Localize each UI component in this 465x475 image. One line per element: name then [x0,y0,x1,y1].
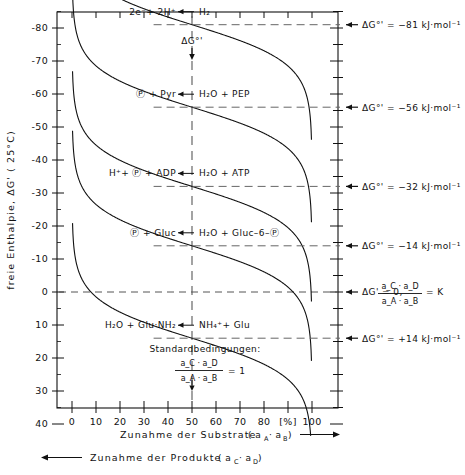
y-axis-title: freie Enthalpie, ΔG' ( 25°C) [5,130,16,289]
curve-line [77,0,312,140]
reaction-label-right: H₂O + Gluc–6–Ⓟ [199,228,279,238]
value-arrow-head [346,184,352,190]
x-axis-percent-label: [%] [279,416,296,427]
value-arrow-head [346,104,352,110]
reaction-label-left: H₂O + Glu·NH₂ [105,320,176,330]
x-tick-label: 20 [114,416,127,427]
x-axis-substrate-terms: ( a [248,430,261,440]
value-arrow-head [346,335,352,341]
y-tick-label: -60 [32,88,48,99]
y-tick-label: -40 [32,154,48,165]
y-tick-label: -10 [32,253,48,264]
y-tick-label: 30 [35,385,48,396]
delta-g-marker-arrow-head [189,54,195,60]
x-tick-label: 100 [302,416,321,427]
x-axis-product-paren-close: ) [258,453,262,463]
value-arrow-head [346,243,352,249]
standard-conditions-title: Standardbedingungen: [149,344,260,354]
equilibrium-fraction-denominator: a_A · a_B [382,297,418,306]
y-tick-label: -80 [32,22,48,33]
dg-value-label: ΔG°' = −14 kJ·mol⁻¹ [362,241,461,251]
reaction-arrow-head [178,9,184,14]
reaction-arrow-head [178,92,184,97]
x-tick-label: 30 [138,416,151,427]
reaction-label-right: NH₄⁺+ Glu [199,320,250,330]
equilibrium-fraction-numerator: a_C · a_D [381,282,418,291]
reaction-label-right: H₂ [199,7,210,17]
chart-figure: -100-80-70-60-50-40-30-20-10010203040[kJ… [0,0,465,475]
x-axis-substrate-caption: Zunahme der Substrate [120,429,256,440]
x-axis-substrate-arrow-head [333,432,340,438]
reaction-label-left: Ⓟ + Gluc [130,228,176,238]
dg-value-label: ΔG°' = −32 kJ·mol⁻¹ [362,182,461,192]
x-tick-label: 10 [90,416,103,427]
delta-g-marker-label: ΔG°' [181,36,203,46]
x-axis-substrate-paren-close: ) [288,430,292,440]
x-axis-substrate-sub-b: B [283,435,287,443]
x-axis-product-terms: ( a [218,453,231,463]
reaction-label-left: 2e⁻+ 2H⁺ [129,7,176,17]
y-tick-label: 10 [35,319,48,330]
x-tick-label: 0 [69,416,75,427]
x-tick-label: 70 [234,416,247,427]
x-tick-label: 40 [162,416,175,427]
y-tick-label: 40 [35,418,48,429]
reaction-label-right: H₂O + PEP [199,89,250,99]
dg-value-label: ΔG°' = +14 kJ·mol⁻¹ [362,334,461,344]
equilibrium-arrow-head [346,289,352,295]
y-tick-label: 0 [42,286,48,297]
y-tick-label: -50 [32,121,48,132]
reaction-arrow-head [178,230,184,235]
y-tick-label: -20 [32,220,48,231]
x-axis-product-dot: · a [239,453,251,463]
reaction-arrow-head [178,171,184,176]
y-tick-label: -70 [32,55,48,66]
x-tick-label: 50 [186,416,199,427]
x-tick-label: 60 [210,416,223,427]
reaction-label-left: H⁺+ Ⓟ + ADP [109,168,176,178]
reaction-arrow-head [178,323,184,328]
y-tick-label: 20 [35,352,48,363]
standard-conditions-arrow-head [189,386,194,391]
value-arrow-head [346,22,352,28]
equilibrium-equals-k: = K [426,287,444,297]
y-tick-label: -30 [32,187,48,198]
standard-conditions-denominator: a_A · a_B [181,374,217,383]
reaction-label-left: Ⓟ + Pyr [136,89,176,99]
standard-conditions-equals-one: = 1 [228,366,245,376]
x-axis-product-caption: Zunahme der Produkte [90,452,222,463]
x-tick-label: 80 [258,416,271,427]
free-enthalpy-chart: -100-80-70-60-50-40-30-20-10010203040[kJ… [0,0,465,475]
dg-value-label: ΔG°' = −56 kJ·mol⁻¹ [362,103,461,113]
x-axis-product-arrow-head [41,455,48,461]
x-axis-substrate-dot: · a [269,430,281,440]
reaction-label-right: H₂O + ATP [199,168,250,178]
dg-value-label: ΔG°' = −81 kJ·mol⁻¹ [362,20,461,30]
series-H2-redox: ΔG°' = −81 kJ·mol⁻¹ [77,0,461,140]
standard-conditions-numerator: a_C · a_D [180,359,217,368]
